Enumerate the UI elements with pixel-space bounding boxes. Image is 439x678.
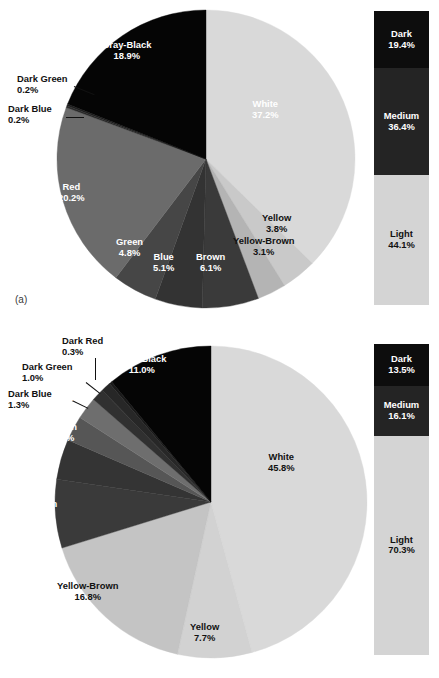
legend-a-segment-dark: Dark 19.4% (374, 11, 429, 68)
legend-a-dark-pct: 19.4% (388, 39, 415, 50)
pie-a-label-dark-blue-name: Dark Blue (8, 103, 52, 114)
legend-bar-a: Dark 19.4% Medium 36.4% Light 44.1% (374, 11, 429, 305)
legend-b-segment-light: Light 70.3% (374, 436, 429, 655)
legend-a-segment-light: Light 44.1% (374, 175, 429, 305)
legend-bar-b: Dark 13.5% Medium 16.1% Light 70.3% (374, 344, 429, 655)
pie-b-label-dark-blue-name: Dark Blue (8, 388, 52, 399)
legend-a-dark-name: Dark (391, 28, 412, 39)
pie-b-label-brown-pct: 7.1% (28, 510, 57, 521)
legend-b-segment-medium: Medium 16.1% (374, 386, 429, 436)
pie-b-label-blue: Blue 4.2% (33, 448, 54, 469)
legend-a-medium-pct: 36.4% (388, 121, 415, 132)
pie-b-svg (54, 345, 368, 659)
pie-chart-a (56, 9, 356, 309)
leader-line-dark-blue-a (66, 117, 84, 118)
legend-b-light-pct: 70.3% (388, 544, 415, 555)
pie-chart-b (54, 345, 368, 659)
legend-a-light-name: Light (390, 228, 413, 239)
pie-a-label-dark-blue: Dark Blue 0.2% (8, 104, 52, 125)
pie-b-label-dark-blue-pct: 1.3% (8, 400, 52, 411)
panel-caption-a: (a) (15, 294, 27, 305)
pie-b-label-blue-name: Blue (34, 447, 54, 458)
leader-line-dark-red-b (95, 358, 96, 380)
legend-b-segment-dark: Dark 13.5% (374, 344, 429, 386)
panel-b: White 45.8% Yellow 7.7% Yellow-Brown 16.… (0, 330, 439, 678)
legend-b-dark-pct: 13.5% (388, 364, 415, 375)
panel-a: White 37.2% Yellow 3.8% Yellow-Brown 3.1… (0, 0, 439, 330)
legend-b-dark-name: Dark (391, 353, 412, 364)
pie-b-label-brown: Brown 7.1% (28, 499, 57, 520)
pie-a-label-dark-blue-pct: 0.2% (8, 115, 52, 126)
pie-a-svg (56, 9, 356, 309)
legend-b-medium-name: Medium (384, 399, 419, 410)
legend-b-medium-pct: 16.1% (388, 410, 415, 421)
pie-b-label-brown-name: Brown (28, 498, 57, 509)
pie-b-label-blue-pct: 4.2% (33, 459, 54, 470)
pie-b-label-dark-blue: Dark Blue 1.3% (8, 389, 52, 410)
legend-a-light-pct: 44.1% (388, 239, 415, 250)
legend-a-medium-name: Medium (384, 110, 419, 121)
legend-b-light-name: Light (390, 534, 413, 545)
legend-a-segment-medium: Medium 36.4% (374, 68, 429, 175)
